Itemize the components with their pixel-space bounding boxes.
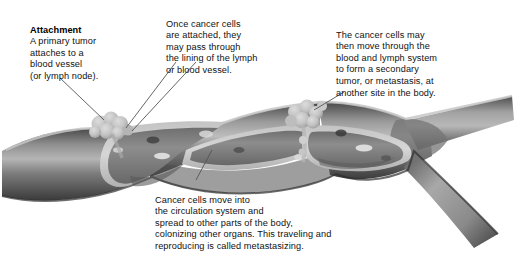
note-lining: Once cancer cells are attached, they may… — [166, 7, 294, 77]
note-attachment-heading: Attachment — [30, 25, 150, 37]
tumor-lobe-7 — [123, 125, 134, 136]
cell-dark-2 — [234, 147, 245, 153]
cell-dark-3 — [335, 130, 346, 137]
note-circulation-body: Cancer cells move into the circulation s… — [155, 195, 331, 251]
cell-light-1 — [154, 153, 170, 159]
note-lining-body: Once cancer cells are attached, they may… — [166, 19, 258, 75]
note-attachment-body: A primary tumor attaches to a blood vess… — [30, 36, 98, 81]
secondary-invading-cell-1 — [299, 136, 307, 144]
secondary-invading-cell-2 — [299, 149, 306, 156]
vessel-branch-lower — [404, 150, 498, 248]
cell-light-4 — [356, 145, 373, 152]
note-secondary-body: The cancer cells may then move through t… — [336, 30, 437, 98]
note-circulation: Cancer cells move into the circulation s… — [155, 183, 365, 253]
secondary-lobe-6 — [285, 115, 297, 127]
tumor-lobe-6 — [89, 126, 101, 138]
note-attachment: AttachmentA primary tumor attaches to a … — [30, 13, 150, 83]
leader-attachment — [60, 78, 104, 120]
cell-dark-1 — [147, 136, 160, 143]
secondary-lobe-7 — [317, 101, 327, 111]
secondary-invasion-trail — [303, 126, 305, 162]
note-secondary: The cancer cells may then move through t… — [336, 18, 504, 99]
metastasis-diagram: AttachmentA primary tumor attaches to a … — [0, 0, 516, 258]
cell-light-2 — [199, 131, 213, 138]
secondary-lobe-5 — [307, 116, 320, 129]
cell-dark-4 — [381, 155, 391, 161]
